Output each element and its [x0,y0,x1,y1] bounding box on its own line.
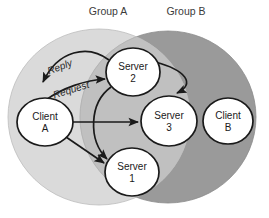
node-server-2-label-line2: 2 [130,73,136,84]
node-client-b-label-line1: Client [215,110,241,121]
node-client-b[interactable]: Client B [203,98,253,144]
node-server-3-label-line2: 3 [166,122,172,133]
node-client-b-shape [203,98,253,144]
node-client-a-shape [17,98,73,146]
node-server-3[interactable]: Server 3 [141,96,197,146]
node-server-2-shape [106,48,160,96]
node-server-1-label-line2: 1 [129,173,135,184]
node-server-3-label-line1: Server [154,110,184,121]
node-client-a[interactable]: Client A [17,98,73,146]
group-a-label: Group A [89,5,128,17]
node-server-1-label-line1: Server [117,161,147,172]
node-client-a-label-line2: A [42,123,49,134]
diagram-svg: Group A Group B Reply Request Client A [0,0,269,218]
group-b-label: Group B [166,5,205,17]
node-server-1[interactable]: Server 1 [105,148,159,196]
node-server-2-label-line1: Server [118,61,148,72]
node-server-2[interactable]: Server 2 [106,48,160,96]
node-server-3-shape [141,96,197,146]
diagram-canvas: Group A Group B Reply Request Client A [0,0,269,218]
node-client-b-label-line2: B [225,122,232,133]
node-client-a-label-line1: Client [32,111,58,122]
node-server-1-shape [105,148,159,196]
